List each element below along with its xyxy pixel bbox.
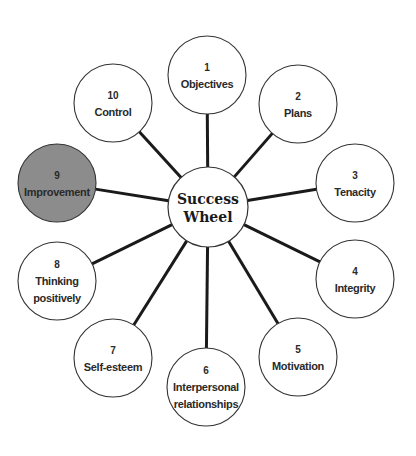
node-number: 8 (54, 259, 60, 270)
wheel-node-self-esteem: 7Self-esteem (74, 319, 152, 397)
node-circle (74, 319, 152, 397)
node-circle (259, 65, 337, 143)
node-circle (18, 144, 96, 222)
spoke-line-5 (229, 241, 278, 323)
node-number: 9 (54, 170, 60, 181)
wheel-node-motivation: 5Motivation (259, 318, 337, 396)
node-label: relationships (174, 398, 239, 410)
hub-circle-shape (168, 167, 248, 247)
spoke-line-6 (206, 247, 207, 348)
wheel-node-control: 10Control (74, 64, 152, 142)
wheel-node-interpersonal-relationships: 6Interpersonalrelationships (167, 348, 245, 426)
spoke-line-3 (247, 189, 316, 200)
node-circle (168, 36, 246, 114)
wheel-node-integrity: 4Integrity (316, 240, 394, 318)
spoke-line-10 (139, 132, 181, 178)
spoke-line-9 (96, 189, 169, 201)
wheel-node-improvement: 9Improvement (18, 144, 96, 222)
node-circle (74, 64, 152, 142)
node-label: Interpersonal (173, 381, 239, 393)
node-label: Motivation (272, 360, 325, 372)
node-number: 5 (295, 344, 301, 355)
node-label: Thinking (35, 275, 78, 287)
node-label: Plans (284, 107, 312, 119)
wheel-node-tenacity: 3Tenacity (316, 144, 394, 222)
success-wheel-diagram: 1Objectives2Plans3Tenacity4Integrity5Mot… (0, 0, 416, 456)
node-number: 7 (110, 345, 116, 356)
spoke-line-2 (234, 133, 272, 177)
node-label: Improvement (24, 186, 90, 198)
node-circle (259, 318, 337, 396)
node-circle (316, 144, 394, 222)
node-number: 3 (352, 170, 358, 181)
node-number: 10 (107, 90, 119, 101)
node-number: 2 (295, 91, 301, 102)
node-label: Control (94, 106, 131, 118)
hub-circle: Success Wheel (168, 167, 248, 247)
node-label: Tenacity (334, 186, 377, 198)
node-label: positively (33, 292, 82, 304)
node-circle (316, 240, 394, 318)
wheel-node-objectives: 1Objectives (168, 36, 246, 114)
spoke-line-7 (134, 241, 187, 325)
hub-title-line-2: Wheel (182, 209, 232, 225)
node-number: 1 (204, 62, 210, 73)
node-label: Self-esteem (84, 361, 143, 373)
wheel-node-plans: 2Plans (259, 65, 337, 143)
spoke-line-4 (244, 225, 320, 262)
node-label: Objectives (181, 78, 234, 90)
wheel-node-thinking-positively: 8Thinkingpositively (18, 242, 96, 320)
hub-title-line-1: Success (177, 191, 239, 207)
node-number: 6 (203, 365, 209, 376)
node-number: 4 (352, 266, 358, 277)
spoke-line-8 (92, 225, 172, 264)
node-label: Integrity (335, 282, 377, 294)
